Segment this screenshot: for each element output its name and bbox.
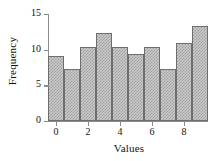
y-tick-mark: 0 xyxy=(44,121,49,122)
plot-area: 051015 02468 xyxy=(48,14,208,122)
y-tick-label: 10 xyxy=(31,43,41,55)
x-tick-mark xyxy=(152,121,153,126)
y-tick-label: 15 xyxy=(31,7,41,19)
y-tick-mark: 5 xyxy=(44,85,49,86)
x-tick-label: 4 xyxy=(118,126,123,138)
histogram-bar xyxy=(80,47,96,121)
histogram-figure: Frequency Values 051015 02468 xyxy=(0,0,218,161)
y-tick-mark: 15 xyxy=(44,14,49,15)
y-tick-label: 5 xyxy=(36,78,41,90)
y-axis-label: Frequency xyxy=(4,0,20,122)
x-tick-label: 0 xyxy=(54,126,59,138)
histogram-bar xyxy=(96,33,112,121)
histogram-bar xyxy=(144,47,160,121)
histogram-bar xyxy=(160,69,176,121)
x-tick-mark xyxy=(120,121,121,126)
x-tick-label: 8 xyxy=(182,126,187,138)
x-axis-label: Values xyxy=(48,142,210,154)
x-tick-mark xyxy=(88,121,89,126)
x-tick-mark xyxy=(56,121,57,126)
histogram-bar xyxy=(48,56,64,121)
histogram-bar xyxy=(128,54,144,121)
histogram-bar xyxy=(64,69,80,121)
x-tick-mark xyxy=(184,121,185,126)
histogram-bar xyxy=(112,47,128,121)
histogram-bar xyxy=(176,43,192,121)
histogram-bar xyxy=(192,26,208,121)
y-tick-mark: 10 xyxy=(44,50,49,51)
x-tick-label: 2 xyxy=(86,126,91,138)
y-tick-label: 0 xyxy=(36,114,41,126)
x-tick-label: 6 xyxy=(150,126,155,138)
